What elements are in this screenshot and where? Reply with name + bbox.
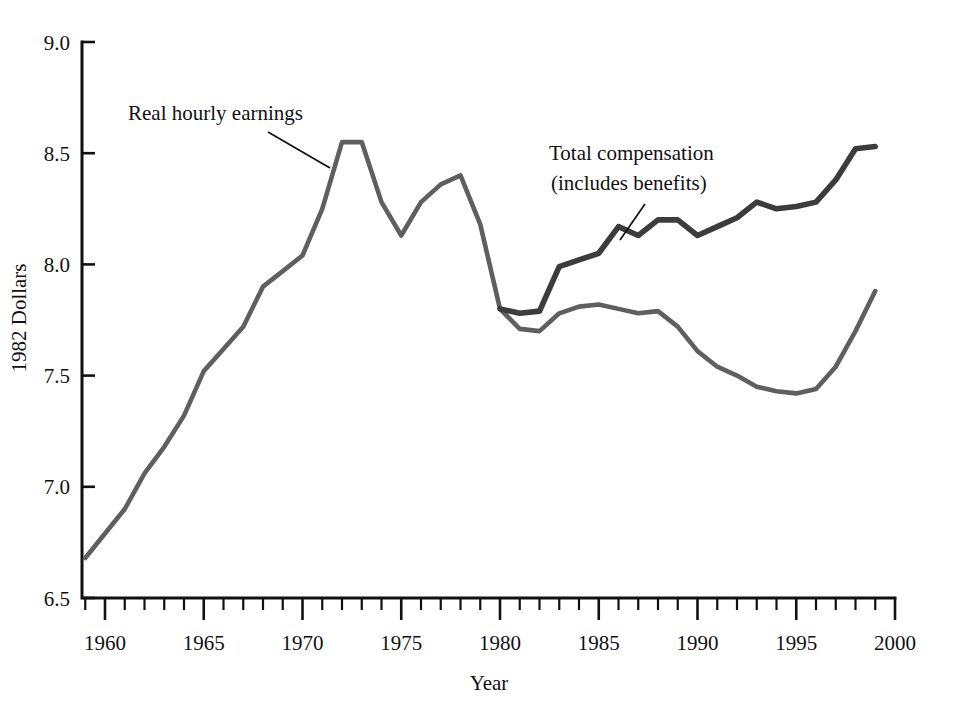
y-tick-label: 7.5 xyxy=(44,364,70,388)
x-tick-label: 1990 xyxy=(677,631,719,655)
x-tick-label: 2000 xyxy=(874,631,916,655)
x-tick-label: 1960 xyxy=(84,631,126,655)
x-tick-label: 1995 xyxy=(775,631,817,655)
annotation-real-hourly-earnings: Real hourly earnings xyxy=(128,101,303,125)
y-tick-label: 8.0 xyxy=(44,253,70,277)
y-axis-ticks xyxy=(82,42,95,598)
x-tick-label: 1965 xyxy=(183,631,225,655)
annotation-total-compensation-line1: Total compensation xyxy=(549,141,714,165)
x-axis-title: Year xyxy=(470,671,509,695)
y-tick-label: 6.5 xyxy=(44,587,70,611)
leader-line-real-hourly-earnings xyxy=(268,132,330,168)
y-axis-title: 1982 Dollars xyxy=(7,263,31,372)
chart-container: 6.57.07.58.08.59.0 196019651970197519801… xyxy=(0,0,970,714)
annotation-total-compensation-line2: (includes benefits) xyxy=(551,171,707,195)
x-tick-label: 1985 xyxy=(578,631,620,655)
y-tick-label: 9.0 xyxy=(44,31,70,55)
y-axis-tick-labels: 6.57.07.58.08.59.0 xyxy=(44,31,70,611)
x-tick-label: 1980 xyxy=(479,631,521,655)
x-tick-label: 1975 xyxy=(380,631,422,655)
chart-axes xyxy=(82,42,895,598)
line-chart-figure: 6.57.07.58.08.59.0 196019651970197519801… xyxy=(0,0,970,714)
y-tick-label: 8.5 xyxy=(44,142,70,166)
x-axis-tick-labels: 196019651970197519801985199019952000 xyxy=(84,631,916,655)
x-tick-label: 1970 xyxy=(282,631,324,655)
y-tick-label: 7.0 xyxy=(44,475,70,499)
